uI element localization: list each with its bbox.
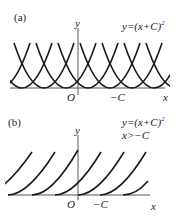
panel-b-axes bbox=[8, 135, 150, 200]
equation-text: y=(x+C) bbox=[122, 20, 161, 32]
panel-a-label: (a) bbox=[14, 12, 26, 23]
equation-exponent: 2 bbox=[161, 115, 165, 123]
equation-text: y=(x+C) bbox=[122, 116, 161, 128]
panel-a-x-axis-label: x bbox=[163, 92, 168, 103]
parabola-curve bbox=[0, 43, 30, 88]
half-parabola-curve bbox=[0, 152, 32, 195]
figure-canvas bbox=[0, 0, 178, 217]
panel-b-x-axis-label: x bbox=[151, 201, 156, 212]
panel-b-y-axis-label: y bbox=[75, 125, 80, 136]
panel-b-origin-label: O bbox=[67, 199, 75, 210]
panel-b-equation: y=(x+C)2 bbox=[122, 116, 165, 128]
panel-a-tick-label: −C bbox=[110, 92, 125, 103]
parabola-curve bbox=[124, 43, 178, 88]
equation-exponent: 2 bbox=[161, 19, 165, 27]
panel-a-y-axis-label: y bbox=[75, 18, 80, 29]
parabola-curve bbox=[146, 43, 178, 88]
panel-b-label: (b) bbox=[8, 117, 21, 128]
panel-b-tick-label: −C bbox=[93, 199, 108, 210]
panel-b-condition: x>−C bbox=[122, 130, 149, 141]
half-parabola-curve bbox=[123, 181, 148, 195]
panel-a-equation: y=(x+C)2 bbox=[122, 20, 165, 32]
panel-b-half-parabolas bbox=[0, 150, 148, 195]
panel-a-origin-label: O bbox=[67, 92, 75, 103]
panel-a-parabolas bbox=[0, 43, 178, 88]
